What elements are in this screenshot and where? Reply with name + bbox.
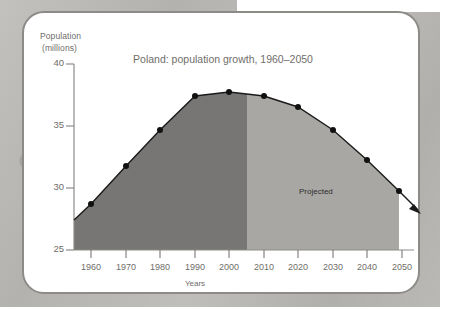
data-point-2050 <box>396 188 402 194</box>
data-point-2030 <box>330 127 336 133</box>
area-fill-projected <box>247 94 399 250</box>
data-point-2020 <box>295 104 301 110</box>
population-growth-chart: Population (millions) Poland: population… <box>24 13 422 296</box>
x-tick-label-1970: 1970 <box>109 262 143 272</box>
x-tick-label-2030: 2030 <box>316 262 350 272</box>
data-point-1990 <box>192 93 198 99</box>
data-point-2010 <box>261 93 267 99</box>
data-point-2040 <box>364 157 370 163</box>
y-axis-ticks <box>66 64 74 250</box>
x-tick-label-2050: 2050 <box>385 262 419 272</box>
data-point-1970 <box>123 163 129 169</box>
area-fill-historical <box>74 92 247 250</box>
x-tick-label-1980: 1980 <box>143 262 177 272</box>
x-tick-label-1990: 1990 <box>178 262 212 272</box>
projected-annotation-label: Projected <box>299 187 333 196</box>
x-axis-ticks <box>91 250 402 258</box>
x-tick-label-1960: 1960 <box>74 262 108 272</box>
data-point-2000 <box>226 89 232 95</box>
page-right-white-band <box>440 0 464 309</box>
data-point-1960 <box>88 201 94 207</box>
x-tick-label-2010: 2010 <box>247 262 281 272</box>
x-tick-label-2000: 2000 <box>212 262 246 272</box>
chart-card: Population (millions) Poland: population… <box>22 11 420 294</box>
chart-plot-area <box>24 13 422 296</box>
x-axis-label: Years <box>24 279 366 288</box>
data-point-1980 <box>157 127 163 133</box>
trend-arrow-head <box>409 204 421 214</box>
x-tick-label-2040: 2040 <box>350 262 384 272</box>
scanned-page-background: Population (millions) Poland: population… <box>0 0 464 309</box>
x-tick-label-2020: 2020 <box>281 262 315 272</box>
